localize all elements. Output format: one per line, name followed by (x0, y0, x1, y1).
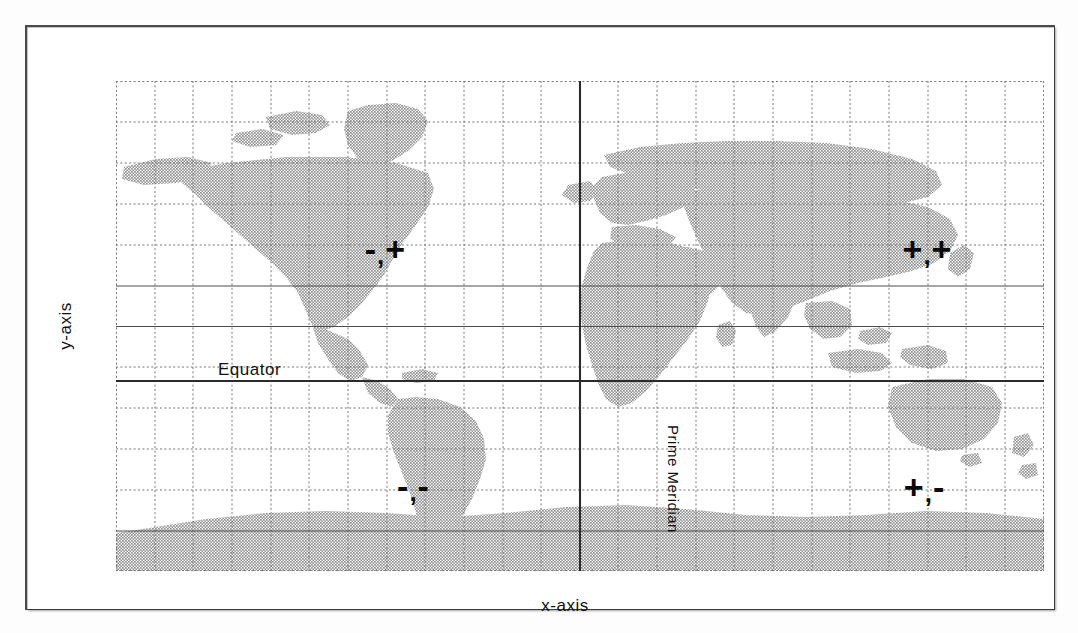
quadrant-se-x-sign: + (904, 477, 924, 497)
antarctica-shape (116, 505, 1044, 571)
new-zealand-south-shape (1018, 463, 1038, 479)
madagascar-shape (716, 321, 736, 347)
quadrant-ne-y-sign: + (932, 239, 952, 259)
philippines-shape (858, 327, 892, 345)
arctic-islands-shape (266, 111, 330, 135)
y-axis-label: y-axis (56, 302, 76, 349)
quadrant-nw-x-sign: - (365, 239, 376, 259)
quadrant-sw-x-sign: - (397, 476, 408, 496)
indonesia-shape (828, 349, 892, 373)
prime-meridian-label: Prime Meridian (665, 425, 682, 533)
caribbean-shape (402, 369, 438, 383)
quadrant-sw-y-sign: - (418, 476, 429, 496)
figure-page: y-axis x-axis (0, 0, 1078, 633)
new-guinea-shape (900, 345, 948, 369)
quadrant-marker-south-east: + , - (904, 477, 944, 497)
quadrant-ne-separator: , (923, 248, 930, 264)
india-shape (748, 275, 796, 337)
quadrant-marker-south-west: - , - (397, 476, 429, 496)
mexico-shape (312, 325, 368, 381)
quadrant-ne-x-sign: + (903, 239, 923, 259)
quadrant-sw-separator: , (409, 485, 416, 501)
quadrant-marker-north-west: - , + (365, 239, 405, 259)
australia-shape (888, 379, 1002, 451)
x-axis-label: x-axis (541, 596, 588, 616)
japan-shape (948, 245, 974, 277)
world-map: Equator Prime Meridian - , + + , + - , -… (116, 81, 1044, 571)
greenland-shape (344, 103, 428, 165)
arctic-islands-2-shape (232, 129, 284, 147)
figure-frame: y-axis x-axis (25, 25, 1055, 610)
quadrant-se-y-sign: - (933, 477, 944, 497)
tasmania-shape (960, 453, 982, 467)
equator-label: Equator (218, 360, 281, 380)
africa-shape (580, 239, 712, 407)
central-america-shape (362, 377, 398, 407)
british-isles-shape (562, 181, 598, 203)
quadrant-nw-y-sign: + (385, 239, 405, 259)
quadrant-marker-north-east: + , + (903, 239, 952, 259)
new-zealand-shape (1012, 433, 1034, 457)
southeast-asia-shape (804, 301, 852, 339)
quadrant-se-separator: , (925, 486, 932, 502)
quadrant-nw-separator: , (377, 248, 384, 264)
